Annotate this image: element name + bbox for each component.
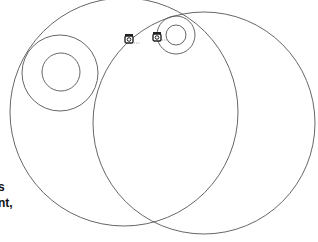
camera-icon[interactable] (153, 32, 161, 41)
cropped-text-line-2: nt, (0, 196, 13, 210)
left-inner-ring (42, 53, 80, 91)
top-inner-ring (166, 25, 186, 45)
diagram-canvas (0, 0, 318, 242)
camera-icon[interactable] (125, 34, 133, 43)
top-outer-ring (157, 16, 195, 54)
large-right-orbit (93, 12, 315, 234)
left-outer-ring (22, 35, 98, 111)
large-left-orbit (10, 0, 238, 226)
cropped-text-line-1: s (0, 180, 5, 194)
